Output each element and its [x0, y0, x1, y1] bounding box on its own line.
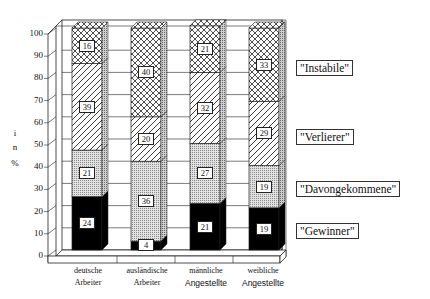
bar-stack	[72, 22, 108, 250]
stacked-bar-chart	[0, 0, 430, 299]
y-axis-title-line: i	[10, 126, 20, 140]
value-label-instabile: 40	[138, 66, 154, 78]
y-tick-label: 80	[29, 72, 43, 82]
value-label-verlierer: 39	[79, 101, 95, 113]
y-tick-label: 100	[29, 28, 43, 38]
value-label-verlierer: 20	[138, 133, 154, 145]
legend-gewinner: "Gewinner"	[296, 223, 359, 239]
y-tick-label: 0	[29, 250, 43, 260]
y-tick-label: 30	[29, 183, 43, 193]
y-tick-label: 20	[29, 206, 43, 216]
legend-verlierer: "Verlierer"	[296, 129, 354, 145]
y-axis-title-line: n	[10, 140, 20, 154]
value-label-gewinner: 19	[256, 223, 272, 235]
value-label-gewinner: 21	[197, 221, 213, 233]
value-label-gewinner: 4	[138, 239, 154, 251]
left-wall	[48, 20, 62, 262]
y-tick-label: 50	[29, 139, 43, 149]
value-label-davongekommene: 36	[138, 195, 154, 207]
value-label-gewinner: 24	[79, 217, 95, 229]
legend-davongekommene: "Davongekommene"	[296, 181, 400, 197]
y-tick-label: 60	[29, 117, 43, 127]
y-axis-title-line: %	[10, 156, 20, 170]
category-line1: weibliche	[228, 265, 298, 277]
value-label-verlierer: 32	[197, 102, 213, 114]
y-axis-title: i n %	[10, 126, 20, 170]
floor	[48, 250, 286, 263]
value-label-davongekommene: 19	[256, 181, 272, 193]
category-line2: Angestellte	[228, 277, 298, 289]
y-tick-label: 40	[29, 161, 43, 171]
y-tick-label: 70	[29, 95, 43, 105]
value-label-instabile: 16	[79, 40, 95, 52]
value-label-davongekommene: 21	[79, 167, 95, 179]
value-label-instabile: 21	[197, 43, 213, 55]
y-tick-label: 90	[29, 50, 43, 60]
value-label-instabile: 33	[256, 59, 272, 71]
value-label-davongekommene: 27	[197, 167, 213, 179]
category-label-weibliche-angestellte: weibliche Angestellte	[228, 265, 298, 289]
y-tick-label: 10	[29, 228, 43, 238]
legend-instabile: "Instabile"	[296, 60, 353, 76]
value-label-verlierer: 29	[256, 127, 272, 139]
